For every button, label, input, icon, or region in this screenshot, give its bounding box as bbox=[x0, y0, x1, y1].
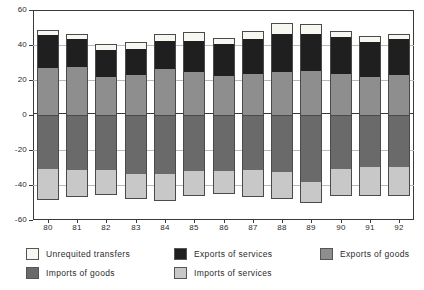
bar-segment[interactable] bbox=[154, 40, 176, 69]
bar-group[interactable] bbox=[37, 10, 59, 220]
bar-segment[interactable] bbox=[183, 171, 205, 196]
y-tick-mark bbox=[29, 220, 33, 221]
legend-label: Imports of goods bbox=[46, 268, 115, 278]
bar-segment[interactable] bbox=[242, 115, 264, 171]
bar-segment[interactable] bbox=[66, 38, 88, 67]
bar-segment[interactable] bbox=[330, 31, 352, 37]
bar-segment[interactable] bbox=[330, 169, 352, 195]
legend-label: Unrequited transfers bbox=[46, 249, 130, 259]
bar-segment[interactable] bbox=[242, 170, 264, 196]
bar-segment[interactable] bbox=[125, 48, 147, 75]
legend-swatch-icon bbox=[26, 267, 39, 279]
bar-segment[interactable] bbox=[66, 34, 88, 39]
bar-group[interactable] bbox=[213, 10, 235, 220]
bar-segment[interactable] bbox=[183, 40, 205, 73]
y-axis-tick-label: 40 bbox=[0, 41, 27, 49]
x-axis-tick-label: 86 bbox=[212, 224, 236, 232]
bar-segment[interactable] bbox=[388, 167, 410, 196]
bar-segment[interactable] bbox=[95, 170, 117, 195]
bar-segment[interactable] bbox=[213, 75, 235, 116]
bar-segment[interactable] bbox=[359, 115, 381, 168]
bar-segment[interactable] bbox=[300, 70, 322, 116]
bar-segment[interactable] bbox=[66, 170, 88, 196]
bar-segment[interactable] bbox=[271, 23, 293, 34]
x-axis-tick-label: 87 bbox=[241, 224, 265, 232]
bar-segment[interactable] bbox=[359, 41, 381, 77]
bar-segment[interactable] bbox=[300, 33, 322, 72]
bar-segment[interactable] bbox=[37, 34, 59, 68]
bar-segment[interactable] bbox=[388, 74, 410, 116]
bar-segment[interactable] bbox=[300, 115, 322, 183]
bar-segment[interactable] bbox=[95, 115, 117, 171]
bar-segment[interactable] bbox=[388, 38, 410, 75]
bar-segment[interactable] bbox=[359, 76, 381, 116]
bar-segment[interactable] bbox=[37, 30, 59, 35]
bar-segment[interactable] bbox=[154, 68, 176, 116]
bar-segment[interactable] bbox=[213, 38, 235, 44]
bar-group[interactable] bbox=[330, 10, 352, 220]
bar-segment[interactable] bbox=[37, 67, 59, 116]
bar-segment[interactable] bbox=[242, 31, 264, 39]
bar-segment[interactable] bbox=[271, 71, 293, 116]
bar-segment[interactable] bbox=[183, 115, 205, 172]
bar-segment[interactable] bbox=[125, 74, 147, 116]
bar-segment[interactable] bbox=[154, 115, 176, 175]
bar-segment[interactable] bbox=[95, 49, 117, 77]
bar-segment[interactable] bbox=[183, 71, 205, 116]
bar-segment[interactable] bbox=[66, 115, 88, 171]
bar-segment[interactable] bbox=[66, 66, 88, 116]
legend-swatch-icon bbox=[174, 267, 187, 279]
bar-group[interactable] bbox=[183, 10, 205, 220]
bar-segment[interactable] bbox=[95, 44, 117, 49]
bar-segment[interactable] bbox=[388, 34, 410, 39]
x-axis-tick-label: 92 bbox=[387, 224, 411, 232]
bar-group[interactable] bbox=[125, 10, 147, 220]
bar-segment[interactable] bbox=[183, 32, 205, 41]
bar-group[interactable] bbox=[242, 10, 264, 220]
bar-segment[interactable] bbox=[330, 115, 352, 170]
bar-segment[interactable] bbox=[125, 115, 147, 175]
bar-segment[interactable] bbox=[154, 174, 176, 201]
bar-segment[interactable] bbox=[95, 76, 117, 116]
bar-segment[interactable] bbox=[125, 174, 147, 200]
bar-group[interactable] bbox=[154, 10, 176, 220]
bar-group[interactable] bbox=[271, 10, 293, 220]
legend-swatch-icon bbox=[26, 248, 39, 260]
bar-segment[interactable] bbox=[271, 115, 293, 173]
bar-group[interactable] bbox=[359, 10, 381, 220]
y-axis-tick-label: -40 bbox=[0, 181, 27, 189]
x-axis-tick-label: 82 bbox=[94, 224, 118, 232]
bar-segment[interactable] bbox=[154, 34, 176, 41]
x-axis-tick-label: 90 bbox=[329, 224, 353, 232]
bar-group[interactable] bbox=[388, 10, 410, 220]
y-axis-tick-label: 60 bbox=[0, 6, 27, 14]
chart-legend: Unrequited transfersExports of servicesE… bbox=[26, 247, 418, 285]
y-axis-tick-label: -60 bbox=[0, 216, 27, 224]
bar-segment[interactable] bbox=[125, 42, 147, 48]
bar-segment[interactable] bbox=[359, 167, 381, 196]
bar-segment[interactable] bbox=[213, 171, 235, 194]
bar-group[interactable] bbox=[300, 10, 322, 220]
bar-segment[interactable] bbox=[271, 172, 293, 199]
bar-segment[interactable] bbox=[242, 38, 264, 74]
bar-segment[interactable] bbox=[359, 36, 381, 41]
bar-segment[interactable] bbox=[388, 115, 410, 168]
bars-layer bbox=[33, 10, 414, 220]
bar-segment[interactable] bbox=[213, 115, 235, 172]
legend-label: Imports of services bbox=[194, 268, 272, 278]
bar-segment[interactable] bbox=[330, 36, 352, 74]
bar-segment[interactable] bbox=[271, 33, 293, 73]
stacked-bar-chart: 6040200-20-40-60 80818283848586878889909… bbox=[0, 0, 424, 290]
bar-segment[interactable] bbox=[300, 24, 322, 34]
bar-segment[interactable] bbox=[330, 73, 352, 116]
bar-segment[interactable] bbox=[37, 115, 59, 170]
bar-segment[interactable] bbox=[213, 43, 235, 76]
x-axis-tick-label: 81 bbox=[65, 224, 89, 232]
bar-group[interactable] bbox=[66, 10, 88, 220]
x-axis-tick-label: 89 bbox=[299, 224, 323, 232]
bar-group[interactable] bbox=[95, 10, 117, 220]
legend-swatch-icon bbox=[174, 248, 187, 260]
bar-segment[interactable] bbox=[242, 73, 264, 116]
bar-segment[interactable] bbox=[300, 182, 322, 203]
bar-segment[interactable] bbox=[37, 169, 59, 200]
